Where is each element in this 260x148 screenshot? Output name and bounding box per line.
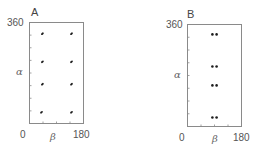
data-point [211, 84, 214, 87]
panel-b-plot [0, 0, 260, 148]
data-point [211, 33, 214, 36]
data-point [215, 65, 218, 68]
plot-frame [188, 25, 242, 127]
data-point [211, 65, 214, 68]
panel-b: B 360 α 0 β 180 [0, 0, 260, 148]
data-point [215, 84, 218, 87]
data-point [215, 33, 218, 36]
data-point [211, 116, 214, 119]
data-point [215, 116, 218, 119]
